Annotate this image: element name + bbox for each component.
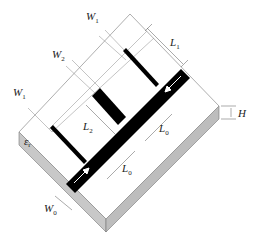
label-w2: W2 bbox=[52, 48, 65, 63]
label-h: H bbox=[237, 107, 247, 119]
microstrip-diagram: W1 W2 W1 L1 L2 L0 L0 W0 H εr bbox=[0, 0, 261, 248]
label-w0: W0 bbox=[44, 202, 57, 217]
label-w1-left: W1 bbox=[13, 86, 26, 101]
label-w1-top: W1 bbox=[86, 10, 99, 25]
label-l1: L1 bbox=[169, 36, 180, 51]
